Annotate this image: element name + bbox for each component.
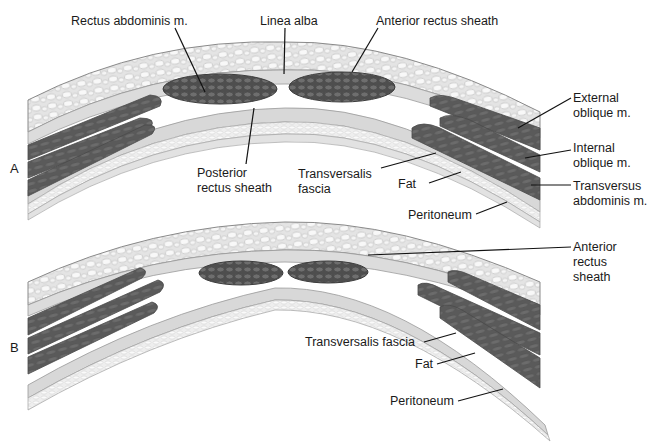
label-internal-oblique: Internal oblique m. (573, 141, 631, 171)
label-peritoneum-b: Peritoneum (390, 394, 454, 409)
anatomy-illustration (0, 0, 662, 444)
label-external-oblique: External oblique m. (573, 91, 631, 121)
abdominal-wall-diagram: A Rectus abdominis m. Linea alba Anterio… (0, 0, 662, 444)
label-anterior-rectus-sheath-a: Anterior rectus sheath (376, 14, 498, 29)
panel-label-b: B (10, 340, 19, 355)
panel-a (28, 28, 571, 228)
label-posterior-rectus-sheath: Posterior rectus sheath (197, 166, 272, 196)
label-fat-b: Fat (415, 357, 433, 372)
rectus-belly-left (163, 74, 277, 104)
label-peritoneum-a: Peritoneum (408, 208, 472, 223)
panel-b (28, 222, 571, 441)
panel-label-a: A (10, 161, 19, 176)
label-fat-a: Fat (398, 177, 416, 192)
label-transversalis-fascia-b: Transversalis fascia (305, 335, 415, 350)
label-transversus-abdominis: Transversus abdominis m. (573, 179, 647, 209)
rectus-belly-right (289, 72, 395, 102)
label-rectus-abdominis: Rectus abdominis m. (71, 14, 188, 29)
label-linea-alba: Linea alba (260, 14, 318, 29)
label-transversalis-fascia-a: Transversalis fascia (298, 167, 372, 197)
label-anterior-rectus-sheath-b: Anterior rectus sheath (573, 240, 617, 285)
